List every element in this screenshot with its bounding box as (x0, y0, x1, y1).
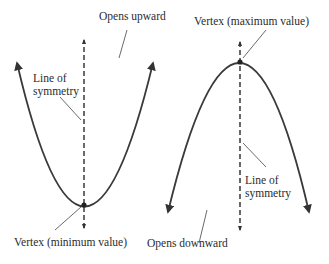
right-symmetry-label-line2: symmetry (245, 187, 291, 200)
right-symmetry-label-line1: Line of (245, 174, 279, 187)
maximum-vertex-label: Vertex (maximum value) (194, 15, 309, 28)
left-symmetry-label-line2: symmetry (33, 85, 79, 98)
minimum-vertex-pointer (55, 207, 81, 230)
opens-upward-pointer (119, 30, 127, 58)
right-symmetry-pointer (243, 143, 266, 167)
maximum-vertex-pointer (243, 30, 266, 58)
left-symmetry-pointer (60, 97, 81, 120)
downward-parabola (168, 30, 309, 243)
parabola-diagram (0, 0, 329, 264)
left-symmetry-label-line1: Line of (33, 72, 67, 85)
maximum-vertex-point (237, 59, 242, 64)
opens-upward-label: Opens upward (99, 10, 166, 23)
minimum-vertex-label: Vertex (minimum value) (14, 236, 127, 249)
opens-downward-label: Opens downward (147, 237, 228, 250)
upward-parabola (17, 30, 153, 230)
minimum-vertex-point (81, 202, 86, 207)
